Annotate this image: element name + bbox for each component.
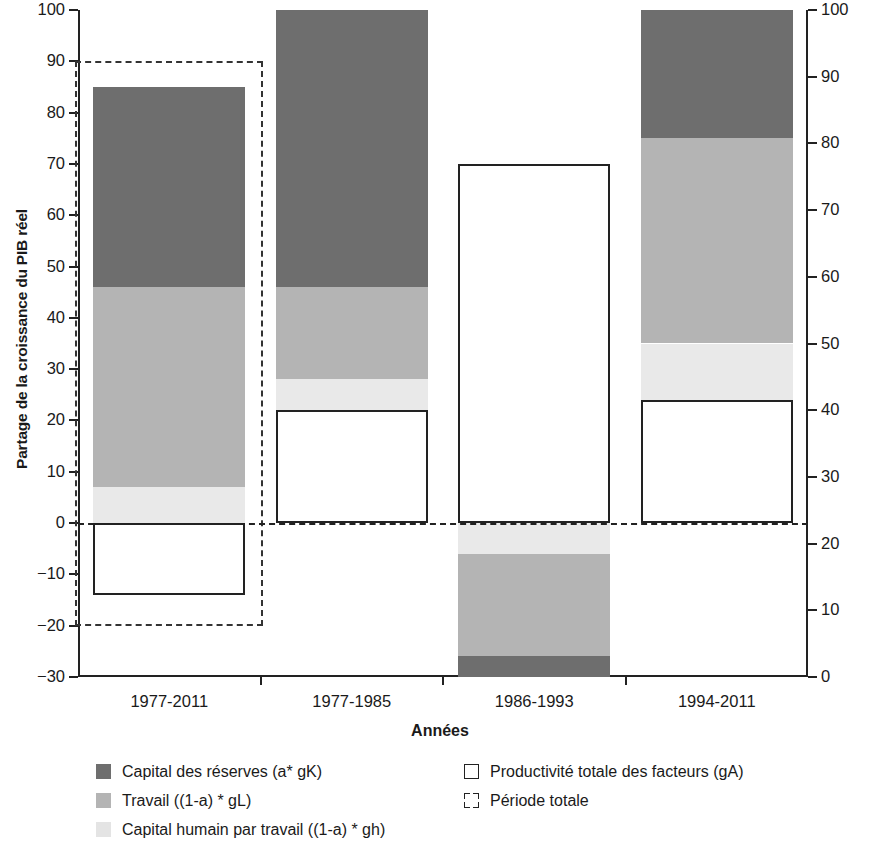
dashed-corner (464, 793, 470, 799)
bar-segment-ptf (641, 400, 793, 523)
x-axis-label: Années (0, 722, 880, 740)
legend-label: Période totale (490, 792, 589, 810)
legend-label: Capital des réserves (a* gK) (122, 763, 322, 781)
left-tick-label: 30 (47, 360, 65, 377)
left-tick-label: 40 (47, 309, 65, 326)
left-tick-label: 10 (47, 463, 65, 480)
x-category-label: 1977-1985 (261, 692, 444, 711)
bar-segment-capital-humain (641, 344, 793, 400)
legend-swatch-light-icon (96, 822, 111, 837)
bar-segment-capital (458, 656, 610, 677)
legend-swatch-dashed-box-icon (464, 793, 479, 808)
right-tick-label: 40 (821, 401, 839, 418)
right-tick-label: 20 (821, 535, 839, 552)
legend-item[interactable]: Travail ((1-a) * gL) (96, 786, 385, 815)
bar-segment-ptf (458, 164, 610, 523)
right-tick-mark (808, 209, 817, 211)
dashed-corner (473, 802, 479, 808)
right-tick-label: 30 (821, 468, 839, 485)
right-tick-label: 90 (821, 68, 839, 85)
zero-reference-line (78, 523, 808, 525)
legend-label: Travail ((1-a) * gL) (122, 792, 251, 810)
left-tick-label: 80 (47, 104, 65, 121)
right-tick-mark (808, 343, 817, 345)
legend-swatch-medium-icon (96, 793, 111, 808)
bar-segment-travail (276, 287, 428, 379)
x-category-label: 1994-2011 (626, 692, 809, 711)
legend-item[interactable]: Capital des réserves (a* gK) (96, 757, 385, 786)
legend-item[interactable]: Période totale (464, 786, 743, 815)
x-category-label: 1977-2011 (78, 692, 261, 711)
left-tick-label: 90 (47, 52, 65, 69)
bar-segment-travail (458, 554, 610, 657)
right-tick-label: 10 (821, 601, 839, 618)
bar-segment-capital-humain (458, 523, 610, 554)
figure-root: Partage de la croissance du PIB réel −30… (0, 0, 880, 848)
right-tick-label: 100 (821, 1, 849, 18)
bar-segment-capital-humain (276, 379, 428, 410)
right-tick-label: 60 (821, 268, 839, 285)
left-tick-label: −20 (37, 617, 65, 634)
bar-segment-ptf (276, 410, 428, 523)
bar-segment-capital (641, 10, 793, 138)
period-total-outline (75, 61, 263, 625)
left-tick-label: −30 (37, 668, 65, 685)
dashed-corner (473, 793, 479, 799)
right-tick-label: 0 (821, 668, 830, 685)
bar-segment-capital (276, 10, 428, 287)
left-tick-mark (69, 9, 78, 11)
left-tick-label: 0 (56, 514, 65, 531)
left-tick-label: 20 (47, 411, 65, 428)
left-tick-label: 60 (47, 206, 65, 223)
right-tick-mark (808, 609, 817, 611)
legend-item[interactable]: Productivité totale des facteurs (gA) (464, 757, 743, 786)
dashed-corner (464, 802, 470, 808)
legend-swatch-dark-icon (96, 764, 111, 779)
legend-label: Capital humain par travail ((1-a) * gh) (122, 821, 385, 839)
legend-column-right: Productivité totale des facteurs (gA)Pér… (464, 757, 743, 815)
x-category-label: 1986-1993 (443, 692, 626, 711)
x-tick-mark (625, 675, 627, 685)
right-tick-label: 70 (821, 201, 839, 218)
x-tick-mark (442, 675, 444, 685)
left-tick-label: 70 (47, 155, 65, 172)
right-tick-mark (808, 142, 817, 144)
legend-swatch-open-box-icon (464, 764, 479, 779)
legend-column-left: Capital des réserves (a* gK)Travail ((1-… (96, 757, 385, 844)
x-tick-mark (260, 675, 262, 685)
right-tick-mark (808, 476, 817, 478)
right-tick-label: 50 (821, 335, 839, 352)
legend-item[interactable]: Capital humain par travail ((1-a) * gh) (96, 815, 385, 844)
right-tick-mark (808, 543, 817, 545)
right-tick-label: 80 (821, 134, 839, 151)
chart-legend: Capital des réserves (a* gK)Travail ((1-… (96, 757, 880, 845)
left-tick-mark (69, 676, 78, 678)
bar-segment-travail (641, 138, 793, 343)
right-tick-mark (808, 676, 817, 678)
right-tick-mark (808, 409, 817, 411)
left-tick-label: 50 (47, 258, 65, 275)
legend-label: Productivité totale des facteurs (gA) (490, 763, 743, 781)
left-tick-label: −10 (37, 565, 65, 582)
y-axis-label: Partage de la croissance du PIB réel (13, 159, 31, 519)
plot-area: −30−20−100102030405060708090100 01020304… (78, 10, 808, 677)
right-tick-mark (808, 9, 817, 11)
left-tick-label: 100 (37, 1, 65, 18)
right-tick-mark (808, 76, 817, 78)
right-tick-mark (808, 276, 817, 278)
